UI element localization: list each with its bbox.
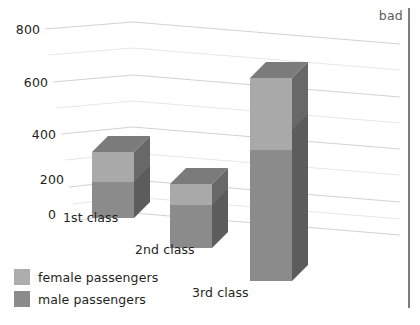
legend-swatch-male-icon (14, 291, 30, 307)
chart-legend: female passengers male passengers (14, 266, 158, 310)
bar-segment-female-1st-class (92, 152, 134, 182)
legend-item-female: female passengers (14, 266, 158, 288)
bar-side-face-2nd-class (212, 168, 228, 248)
annotation-bad-label: bad (379, 8, 403, 23)
legend-item-male: male passengers (14, 288, 158, 310)
y-axis-tick-400: 400 (16, 127, 56, 142)
bar-front-face-3rd-class (250, 78, 292, 281)
y-axis-tick-600: 600 (8, 75, 48, 90)
legend-label-male: male passengers (38, 292, 146, 307)
bar-side-face-1st-class (134, 136, 150, 218)
chart-container: 800 600 400 200 0 (0, 0, 420, 325)
legend-swatch-female-icon (14, 269, 30, 285)
bar-3rd-class (250, 62, 308, 281)
bar-side-face-3rd-class (292, 62, 308, 281)
bar-segment-male-3rd-class (250, 150, 292, 281)
y-axis-tick-800: 800 (0, 22, 40, 37)
vertical-divider-icon (408, 8, 410, 308)
y-axis-tick-200: 200 (24, 172, 64, 187)
bar-front-face-2nd-class (170, 184, 212, 248)
legend-label-female: female passengers (38, 270, 158, 285)
bar-1st-class (92, 136, 150, 218)
x-axis-label-2nd-class: 2nd class (135, 242, 195, 257)
y-axis-tick-0: 0 (16, 207, 56, 222)
x-axis-label-3rd-class: 3rd class (192, 285, 249, 300)
bar-2nd-class (170, 168, 228, 248)
bar-segment-female-2nd-class (170, 184, 212, 205)
bar-segment-female-3rd-class (250, 78, 292, 150)
x-axis-label-1st-class: 1st class (63, 210, 118, 225)
bar-front-face-1st-class (92, 152, 134, 218)
